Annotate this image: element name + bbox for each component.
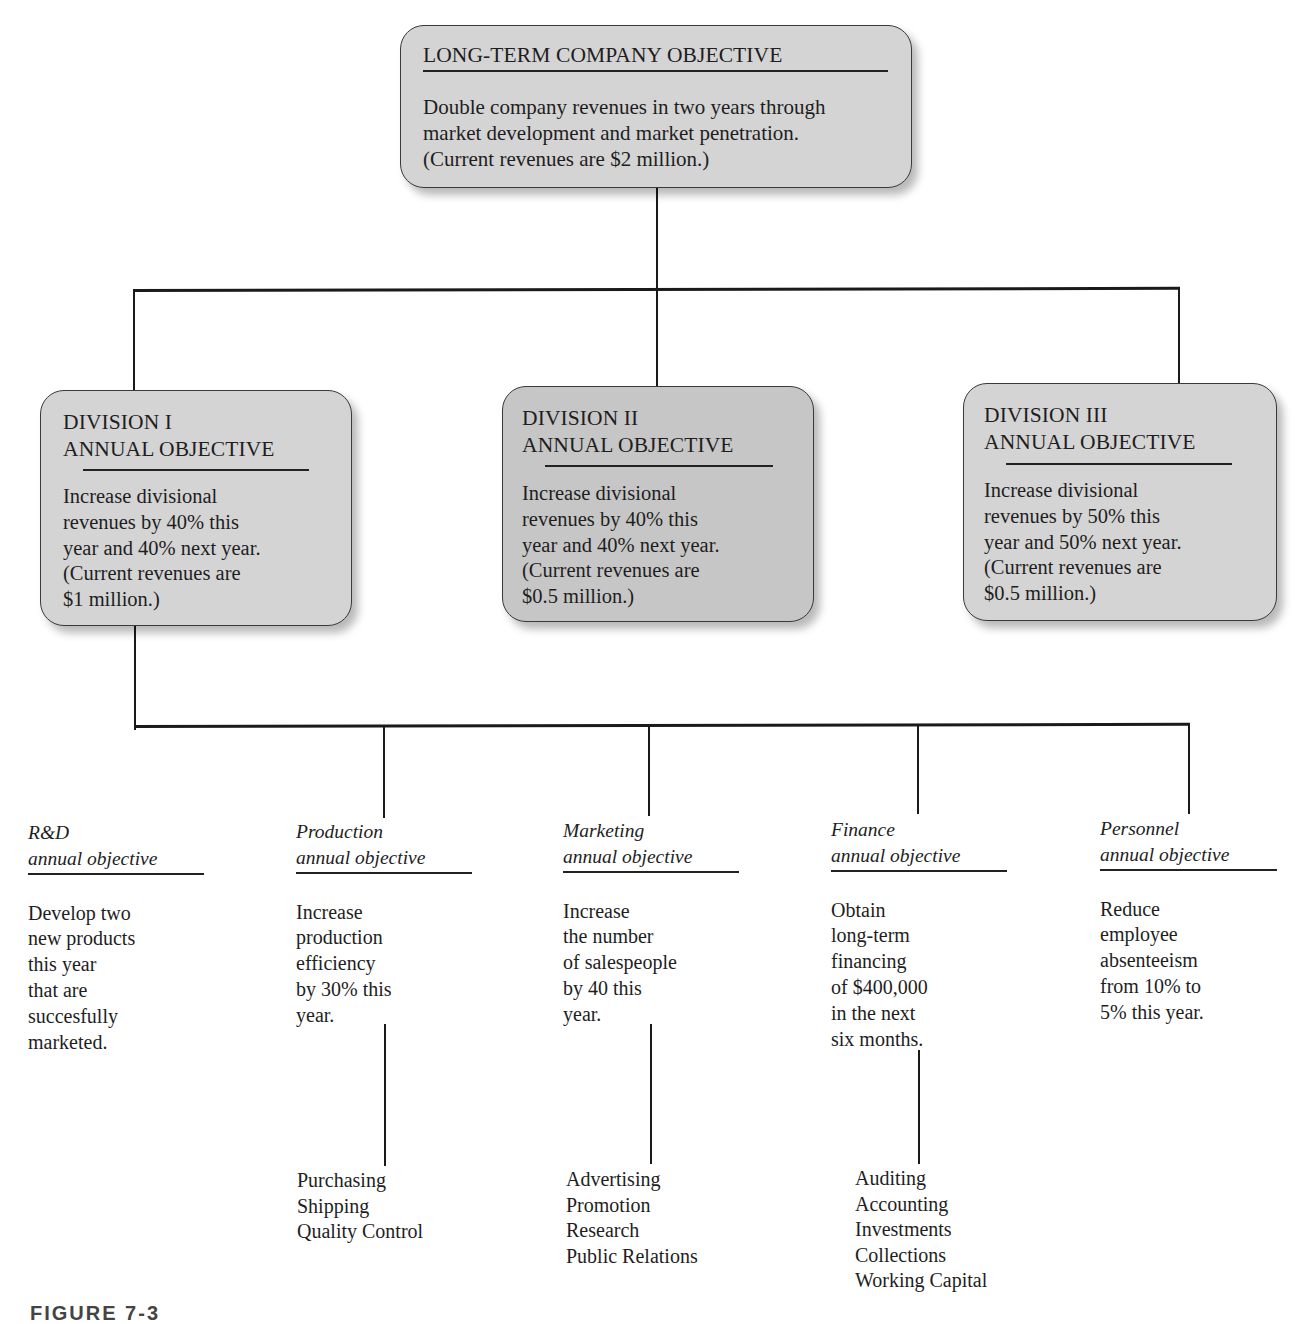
- division-ii-box: DIVISION II ANNUAL OBJECTIVE Increase di…: [502, 386, 814, 622]
- sub-unit: Collections: [855, 1243, 987, 1269]
- func-personnel: Personnel annual objective Reduce employ…: [1100, 816, 1277, 1026]
- connector-finance-sub: [918, 1050, 920, 1164]
- func-rd: R&D annual objective Develop two new pro…: [28, 820, 204, 1055]
- production-sub-units: Purchasing Shipping Quality Control: [297, 1168, 423, 1245]
- connector-finance: [917, 726, 919, 814]
- marketing-sub-units: Advertising Promotion Research Public Re…: [566, 1167, 698, 1269]
- func-production-text: Increase production efficiency by 30% th…: [296, 900, 472, 1029]
- division-iii-title: DIVISION III ANNUAL OBJECTIVE: [984, 402, 1196, 456]
- sub-unit: Quality Control: [297, 1219, 423, 1245]
- company-objective-box: LONG-TERM COMPANY OBJECTIVE Double compa…: [400, 25, 912, 188]
- func-marketing: Marketing annual objective Increase the …: [563, 818, 739, 1028]
- sub-unit: Promotion: [566, 1193, 698, 1219]
- finance-sub-units: Auditing Accounting Investments Collecti…: [855, 1166, 987, 1294]
- sub-unit: Advertising: [566, 1167, 698, 1193]
- func-rd-text: Develop two new products this year that …: [28, 901, 204, 1056]
- func-personnel-heading: Personnel annual objective: [1100, 816, 1277, 868]
- sub-unit: Purchasing: [297, 1168, 423, 1194]
- company-objective-rule: [423, 70, 888, 72]
- company-objective-text: Double company revenues in two years thr…: [423, 94, 825, 172]
- func-production-rule: [296, 872, 472, 874]
- func-personnel-text: Reduce employee absenteeism from 10% to …: [1100, 897, 1277, 1026]
- division-ii-text: Increase divisional revenues by 40% this…: [522, 481, 720, 610]
- division-i-title: DIVISION I ANNUAL OBJECTIVE: [63, 409, 275, 463]
- division-iii-text: Increase divisional revenues by 50% this…: [984, 478, 1182, 607]
- division-ii-title: DIVISION II ANNUAL OBJECTIVE: [522, 405, 734, 459]
- func-rd-rule: [28, 873, 204, 875]
- sub-unit: Auditing: [855, 1166, 987, 1192]
- func-finance-heading: Finance annual objective: [831, 817, 1007, 869]
- func-finance-text: Obtain long-term financing of $400,000 i…: [831, 898, 1007, 1053]
- connector-division-iii-up: [1178, 289, 1180, 385]
- sub-unit: Public Relations: [566, 1244, 698, 1270]
- func-finance-rule: [831, 870, 1007, 872]
- sub-unit: Accounting: [855, 1192, 987, 1218]
- connector-function-bar: [134, 723, 1190, 728]
- division-iii-box: DIVISION III ANNUAL OBJECTIVE Increase d…: [963, 383, 1277, 621]
- connector-division-ii-up: [656, 291, 658, 387]
- func-finance: Finance annual objective Obtain long-ter…: [831, 817, 1007, 1052]
- connector-marketing: [648, 726, 650, 816]
- func-marketing-rule: [563, 871, 739, 873]
- func-personnel-rule: [1100, 869, 1277, 871]
- func-rd-heading: R&D annual objective: [28, 820, 204, 872]
- connector-company-down: [656, 186, 658, 292]
- connector-production: [383, 726, 385, 818]
- division-i-box: DIVISION I ANNUAL OBJECTIVE Increase div…: [40, 390, 352, 626]
- figure-label: FIGURE 7-3: [30, 1302, 160, 1324]
- connector-marketing-sub: [650, 1024, 652, 1164]
- sub-unit: Investments: [855, 1217, 987, 1243]
- connector-personnel: [1188, 724, 1190, 814]
- sub-unit: Working Capital: [855, 1268, 987, 1294]
- company-objective-title: LONG-TERM COMPANY OBJECTIVE: [423, 42, 782, 69]
- func-production-heading: Production annual objective: [296, 819, 472, 871]
- connector-division-i-down: [134, 626, 136, 730]
- division-ii-rule: [545, 465, 773, 467]
- division-i-rule: [83, 469, 309, 471]
- sub-unit: Research: [566, 1218, 698, 1244]
- connector-division-i-up: [133, 291, 135, 391]
- connector-production-sub: [384, 1024, 386, 1166]
- sub-unit: Shipping: [297, 1194, 423, 1220]
- division-i-text: Increase divisional revenues by 40% this…: [63, 484, 261, 613]
- func-marketing-text: Increase the number of salespeople by 40…: [563, 899, 739, 1028]
- func-marketing-heading: Marketing annual objective: [563, 818, 739, 870]
- division-iii-rule: [1006, 463, 1232, 465]
- func-production: Production annual objective Increase pro…: [296, 819, 472, 1029]
